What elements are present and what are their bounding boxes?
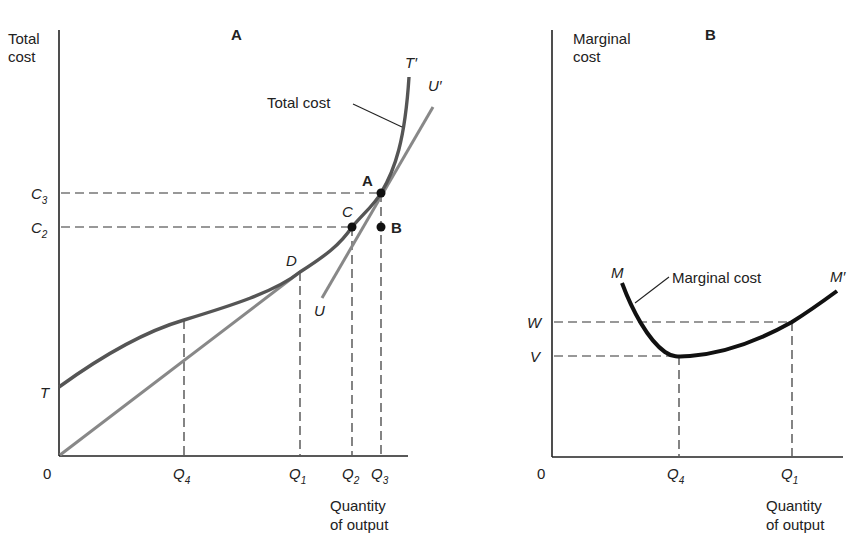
panel-a-y-axis-label-line2: cost [8,48,36,65]
panel-a: Total cost A Total cost T′ U′ U T A B C … [8,26,443,533]
tangent-line-uu [322,107,433,298]
panel-b-title: B [705,26,716,43]
marginal-cost-curve [622,283,837,357]
point-b [377,223,386,232]
panel-b: Marginal cost B Marginal cost M M′ W V 0… [527,26,846,533]
panel-b-x-tick-q4: Q4 [667,465,685,486]
cost-curves-diagram: Total cost A Total cost T′ U′ U T A B C … [0,0,859,560]
panel-a-origin: 0 [43,465,51,482]
y-tick-c3: C3 [31,185,48,206]
y-tick-w: W [527,314,543,331]
total-cost-curve [59,77,409,387]
panel-a-dashed-guides [61,193,381,455]
panel-b-y-axis-label-line1: Marginal [573,30,631,47]
point-c [348,223,357,232]
total-cost-label: Total cost [267,94,331,111]
curve-end-label-m-prime: M′ [830,268,846,285]
curve-start-label-t: T [40,384,51,401]
x-tick-q3: Q3 [371,465,389,486]
point-b-label: B [391,219,402,236]
panel-a-x-axis-label-line1: Quantity [330,497,386,514]
panel-a-x-axis-label-line2: of output [330,516,389,533]
tangent-end-label-u-prime: U′ [428,77,443,94]
tangent-start-label-u: U [314,302,325,319]
marginal-cost-label: Marginal cost [672,269,762,286]
marginal-cost-leader [635,277,669,303]
panel-b-dashed-guides [554,322,792,456]
panel-b-x-axis-label-line2: of output [766,516,825,533]
point-a [377,189,386,198]
x-tick-q2: Q2 [342,465,360,486]
panel-b-origin: 0 [537,465,545,482]
total-cost-leader [353,104,402,127]
point-a-label: A [362,172,373,189]
y-tick-c2: C2 [31,219,48,240]
curve-end-label-t-prime: T′ [405,54,418,71]
panel-b-y-axis-label-line2: cost [573,48,601,65]
point-d-label: D [286,252,297,269]
x-tick-q1: Q1 [289,465,306,486]
x-tick-q4: Q4 [173,465,191,486]
y-tick-v: V [530,348,542,365]
panel-b-x-tick-q1: Q1 [781,465,798,486]
point-c-label: C [342,203,353,220]
panel-a-y-axis-label-line1: Total [8,30,40,47]
panel-b-x-axis-label-line1: Quantity [766,497,822,514]
panel-a-title: A [231,26,242,43]
curve-start-label-m: M [611,264,624,281]
